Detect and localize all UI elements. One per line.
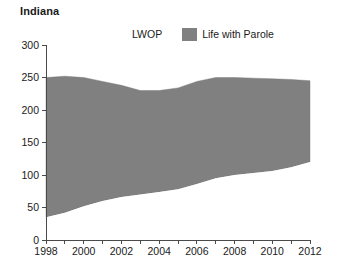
y-tick-label: 200 [21, 104, 39, 116]
y-tick-label: 250 [21, 71, 39, 83]
x-tick-label: 2010 [261, 245, 285, 257]
y-tick-label: 100 [21, 169, 39, 181]
x-tick-label: 2012 [298, 245, 322, 257]
x-tick-label: 2006 [185, 245, 209, 257]
y-axis-ticks: 050100150200250300 [21, 39, 46, 246]
x-tick-label: 2002 [110, 245, 134, 257]
chart-svg: 050100150200250300 199820002002200420062… [0, 0, 340, 270]
x-tick-label: 2000 [72, 245, 96, 257]
area-series-group [46, 76, 310, 240]
y-tick-label: 50 [27, 201, 39, 213]
x-tick-label: 2008 [223, 245, 247, 257]
x-tick-label: 1998 [34, 245, 58, 257]
plot-area: 050100150200250300 199820002002200420062… [0, 0, 340, 270]
chart-container: Indiana LWOP Life with Parole 0501001502… [0, 0, 340, 270]
y-tick-label: 300 [21, 39, 39, 51]
y-tick-label: 150 [21, 136, 39, 148]
x-axis-ticks: 19982000200220042006200820102012 [34, 240, 322, 257]
x-tick-label: 2004 [147, 245, 171, 257]
y-tick-label: 0 [33, 234, 39, 246]
